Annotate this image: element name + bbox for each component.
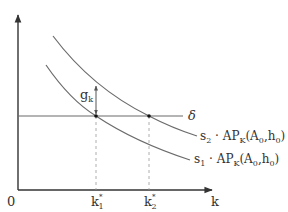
curve-s2: [53, 36, 197, 136]
delta-label: δ: [188, 108, 196, 123]
curve-s1-label: s1 · APK(A0,h0): [194, 152, 279, 168]
x-axis-label: k: [211, 194, 219, 209]
equilibrium-point-k2: [147, 114, 151, 118]
curve-s1: [46, 65, 190, 160]
k1-star-label: k*1: [91, 193, 103, 211]
equilibrium-point-k1: [94, 114, 98, 118]
steady-state-diagram: gk δ s2 · APK(A0,h0) s1 · APK(A0,h0) 0 k…: [0, 0, 288, 212]
curve-s2-label: s2 · APK(A0,h0): [200, 129, 285, 145]
gap-label: gk: [80, 87, 93, 104]
k2-star-label: k*2: [144, 193, 156, 211]
origin-label: 0: [7, 194, 15, 209]
